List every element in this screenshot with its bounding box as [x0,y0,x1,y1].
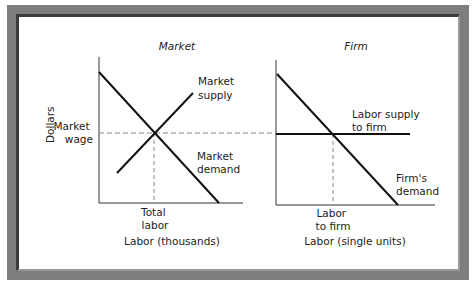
firm-x-axis-label: Labor (single units) [304,235,405,247]
market-wage-label: Market wage [54,120,93,145]
market-title: Market [159,40,196,52]
market-x-axis-label: Labor (thousands) [124,235,220,247]
labor-to-firm-tick-label: Labor to firm [316,207,351,232]
market-supply-label: Market supply [198,75,237,101]
firm-demand-label: Firm's demand [396,172,439,197]
firm-title: Firm [344,40,368,52]
total-labor-tick-label: Total labor [140,206,169,231]
firm-demand-curve [277,74,398,205]
firm-supply-label: Labor supply to firm [352,108,423,133]
market-demand-label: Market demand [197,150,240,175]
labor-market-diagram: Dollars Market wage Market Market supply… [0,0,475,287]
